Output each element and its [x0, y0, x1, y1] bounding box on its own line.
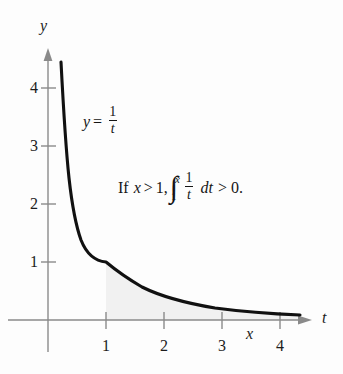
note-variable: x [134, 180, 141, 196]
equation-lhs: y [83, 114, 90, 130]
x-marker-label: x [246, 326, 253, 342]
differential: dt [201, 180, 213, 196]
integral-inequality-annotation: If x > 1, ∫ x 1 1 t dt > 0. [118, 172, 243, 203]
integrand-denominator: t [185, 186, 193, 202]
figure-container: 4 3 2 1 1 2 3 4 y t x y = 1 t If x > 1, … [0, 0, 343, 374]
x-tick-label-1: 1 [98, 338, 114, 354]
y-axis-label: y [40, 18, 47, 34]
note-comparison: > 0. [218, 180, 243, 196]
integral-upper-limit: x [175, 174, 181, 185]
x-tick-label-3: 3 [214, 338, 230, 354]
y-tick-label-3: 3 [22, 138, 38, 154]
x-axis-arrowhead [298, 316, 312, 325]
scan-artifact-strip [0, 358, 343, 372]
x-tick-label-4: 4 [272, 338, 288, 354]
equation-fraction: 1 t [107, 105, 118, 136]
fraction-numerator: 1 [107, 105, 118, 120]
y-axis-arrowhead [44, 48, 53, 61]
integrand-fraction: 1 t [184, 171, 195, 202]
curve-equation-annotation: y = 1 t [83, 106, 120, 137]
equation-equals: = [90, 114, 105, 130]
y-tick-label-4: 4 [22, 80, 38, 96]
integral-lower-limit: 1 [171, 191, 177, 202]
note-greater-than: > [141, 180, 156, 196]
shaded-area-under-curve [106, 262, 300, 320]
y-tick-label-2: 2 [22, 196, 38, 212]
fraction-denominator: t [109, 120, 117, 136]
x-axis-label: t [322, 310, 326, 326]
integral-expression: ∫ x 1 [170, 175, 181, 201]
integrand-numerator: 1 [184, 171, 195, 186]
note-bound: 1, [156, 180, 168, 196]
y-tick-label-1: 1 [22, 254, 38, 270]
x-tick-label-2: 2 [156, 338, 172, 354]
note-prefix: If [118, 180, 129, 196]
